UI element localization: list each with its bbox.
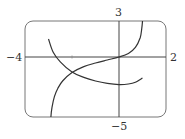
y-max-label: 3 xyxy=(115,7,122,18)
plot-frame xyxy=(25,21,166,117)
x-max-label: 2 xyxy=(170,52,177,63)
y-min-label: −5 xyxy=(111,121,127,132)
series-u-shaped-curve xyxy=(49,39,143,85)
series-increasing-curve xyxy=(51,21,143,117)
x-min-label: −4 xyxy=(6,52,22,63)
chart-plot xyxy=(0,0,185,139)
